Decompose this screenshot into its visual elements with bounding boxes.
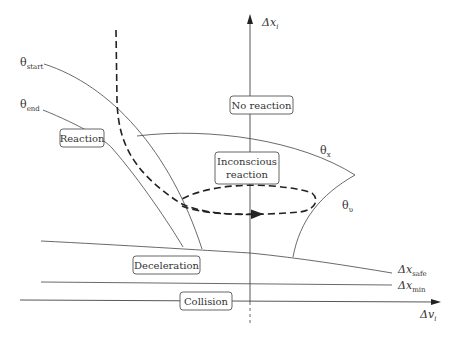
x-axis-label: Δvi (419, 308, 436, 323)
svg-text:Deceleration: Deceleration (134, 260, 200, 271)
region-reaction: Reaction (60, 129, 105, 147)
phase-diagram: Δxi Δvi Δxmin Δxsafe θstart θend θx θυ N… (0, 0, 454, 337)
svg-text:Reaction: Reaction (60, 133, 105, 144)
trajectory-dashed-path (116, 30, 316, 214)
theta-x-label: θx (320, 144, 331, 159)
dx-safe-curve (41, 241, 392, 273)
x-axis-arrow-icon (431, 299, 441, 305)
svg-text:reaction: reaction (226, 169, 268, 180)
theta-v-label: θυ (342, 199, 353, 214)
region-no-reaction: No reaction (230, 96, 293, 114)
theta-end-label: θend (20, 98, 40, 113)
dx-min-line (41, 282, 392, 285)
theta-v-curve (293, 175, 355, 257)
svg-text:No reaction: No reaction (232, 100, 292, 111)
dx-min-label: Δxmin (397, 279, 426, 294)
svg-text:Inconscious: Inconscious (217, 156, 277, 167)
theta-start-curve (44, 64, 202, 249)
region-collision: Collision (180, 292, 232, 310)
y-axis-label: Δxi (261, 16, 278, 31)
region-deceleration: Deceleration (133, 256, 200, 274)
svg-text:Collision: Collision (184, 296, 229, 307)
dx-safe-label: Δxsafe (397, 263, 427, 278)
y-axis-arrow-icon (247, 14, 253, 24)
region-inconscious-reaction: Inconscious reaction (215, 152, 279, 184)
theta-start-label: θstart (20, 56, 44, 71)
